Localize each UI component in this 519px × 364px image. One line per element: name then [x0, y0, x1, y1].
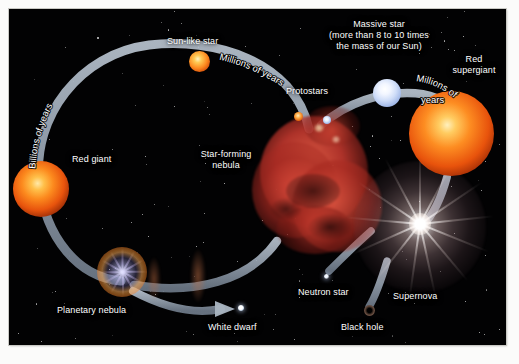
label-massive-star: Massive star(more than 8 to 10 timesthe … [305, 19, 453, 52]
label-black-hole: Black hole [341, 322, 384, 333]
label-sun-like-star: Sun-like star [167, 36, 218, 47]
label-planetary-nebula: Planetary nebula [57, 305, 126, 316]
diagram-frame: Billions of years Millions of years Mill… [9, 9, 506, 345]
label-white-dwarf: White dwarf [208, 322, 257, 333]
page-canvas: Billions of years Millions of years Mill… [0, 0, 519, 364]
label-red-giant: Red giant [72, 154, 111, 165]
space-background: Billions of years Millions of years Mill… [9, 9, 506, 345]
label-red-supergiant: Redsupergiant [445, 54, 503, 76]
label-star-forming-nebula: Star-formingnebula [185, 149, 267, 171]
label-protostars: Protostars [286, 86, 328, 97]
label-millions-of-years-high-mass-line2: years [421, 94, 444, 105]
label-millions-of-years-low-mass: Millions of years [219, 51, 287, 89]
label-neutron-star: Neutron star [298, 287, 349, 298]
label-billions-of-years: Billions of years [26, 101, 54, 169]
label-supernova: Supernova [393, 291, 437, 302]
